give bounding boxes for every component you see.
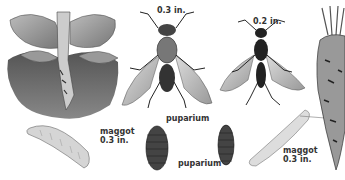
puparium-label-bottom: puparium: [178, 159, 221, 168]
maggot-label-right: maggot: [283, 146, 318, 155]
maggot-size-right: 0.3 in.: [283, 155, 311, 164]
puparium-label-top: puparium: [166, 114, 209, 123]
puparium-large: [146, 126, 168, 170]
fly-large: [122, 12, 212, 108]
maggot-left: [27, 126, 89, 168]
maggot-size-left: 0.3 in.: [100, 136, 128, 145]
insect-illustration: maggot 0.3 in. 0.3 in. puparium puparium…: [0, 0, 345, 180]
fly-large-size: 0.3 in.: [157, 6, 185, 15]
carrot: [317, 6, 345, 170]
maggot-label-left: maggot: [100, 127, 135, 136]
fly-small: [220, 20, 305, 105]
fly-small-size: 0.2 in.: [253, 17, 281, 26]
cabbage-plant: [7, 12, 118, 119]
